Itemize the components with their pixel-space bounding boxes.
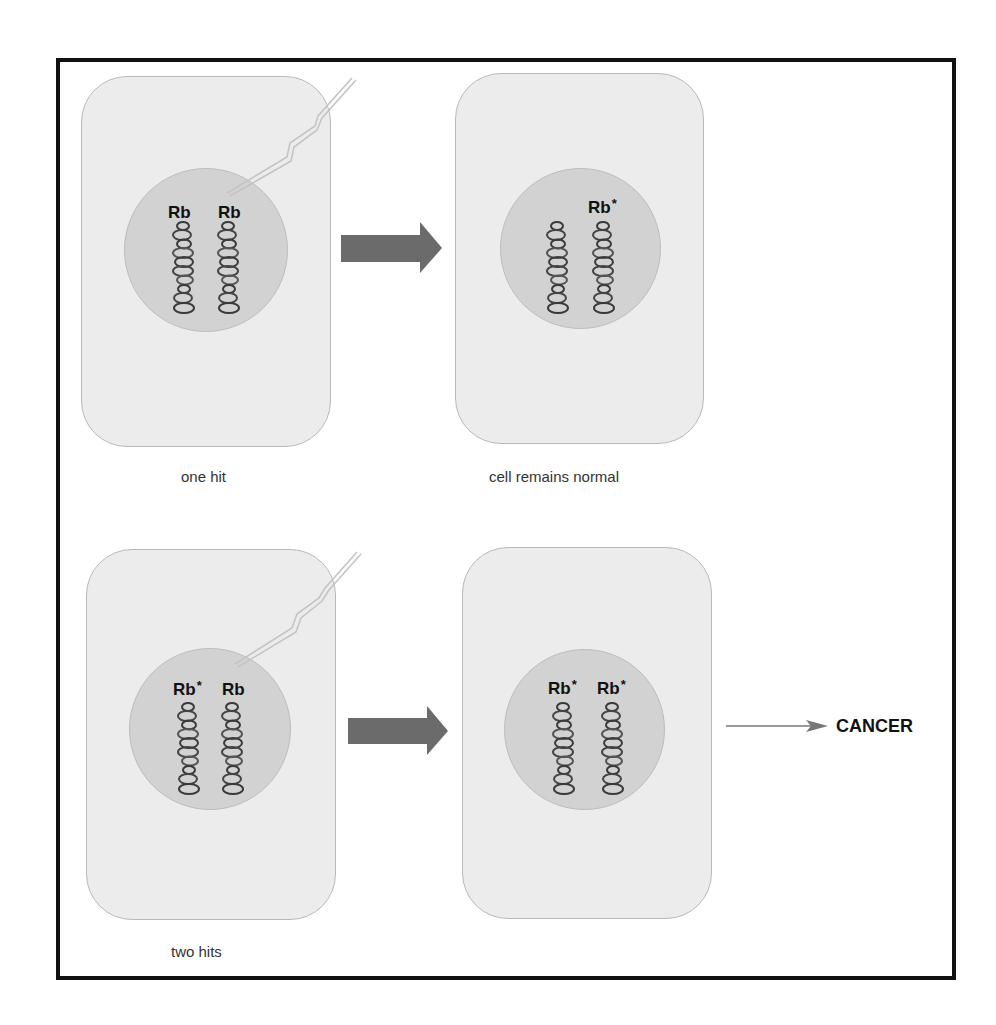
caption-one-hit: one hit bbox=[181, 469, 226, 484]
outcome-cancer-label: CANCER bbox=[836, 717, 913, 735]
gene-label-rb-mutated: Rb* bbox=[173, 681, 202, 698]
caption-cell-remains-normal: cell remains normal bbox=[489, 469, 619, 484]
gene-label-rb: Rb bbox=[168, 204, 191, 221]
nucleus bbox=[504, 649, 665, 810]
gene-label-rb: Rb bbox=[222, 681, 245, 698]
gene-label-rb-mutated: Rb* bbox=[597, 680, 626, 697]
nucleus bbox=[500, 168, 661, 329]
nucleus bbox=[129, 648, 291, 810]
gene-label-rb: Rb bbox=[218, 204, 241, 221]
gene-label-rb-mutated: Rb* bbox=[588, 199, 617, 216]
caption-two-hits: two hits bbox=[171, 944, 222, 959]
nucleus bbox=[124, 168, 288, 332]
gene-label-rb-mutated: Rb* bbox=[548, 680, 577, 697]
